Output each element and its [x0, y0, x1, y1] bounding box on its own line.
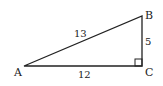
side-label-ab: 13 [74, 28, 87, 39]
side-label-ac: 12 [78, 69, 91, 80]
side-label-bc: 5 [145, 36, 151, 47]
vertex-label-b: B [145, 9, 153, 22]
right-angle-marker [135, 59, 142, 66]
triangle-abc [24, 16, 142, 66]
vertex-label-c: C [145, 66, 153, 79]
vertex-label-a: A [13, 66, 23, 79]
triangle-diagram: A B C 13 5 12 [0, 0, 163, 86]
